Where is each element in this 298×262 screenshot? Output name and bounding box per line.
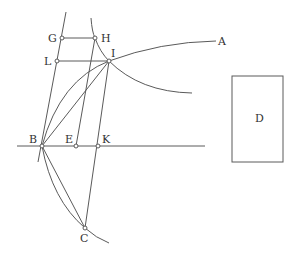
label-A: A bbox=[217, 35, 227, 48]
point-E bbox=[74, 144, 78, 148]
label-E: E bbox=[65, 133, 73, 146]
label-B: B bbox=[29, 133, 37, 146]
label-D: D bbox=[255, 112, 264, 125]
point-C bbox=[83, 226, 87, 230]
curve-BC bbox=[42, 146, 109, 243]
curve-BIA bbox=[42, 41, 216, 146]
geometric-diagram: G H L I B E K C A D bbox=[0, 0, 298, 262]
label-K: K bbox=[102, 133, 111, 146]
segment-HE bbox=[76, 38, 95, 146]
point-B bbox=[40, 144, 44, 148]
label-C: C bbox=[80, 232, 88, 245]
point-K bbox=[96, 144, 100, 148]
point-H bbox=[93, 36, 97, 40]
point-G bbox=[60, 36, 64, 40]
label-H: H bbox=[101, 32, 111, 45]
label-G: G bbox=[48, 32, 57, 45]
segment-BC bbox=[42, 146, 85, 228]
label-I: I bbox=[111, 47, 115, 60]
point-L bbox=[55, 59, 59, 63]
label-L: L bbox=[44, 55, 52, 68]
